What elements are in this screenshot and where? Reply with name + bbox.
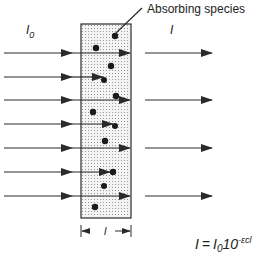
path-length-indicator: l <box>81 225 131 237</box>
absorbing-species-label: Absorbing species <box>147 2 245 16</box>
svg-text:I0: I0 <box>26 23 34 40</box>
incident-light-arrows <box>4 53 72 196</box>
incident-intensity-label: I0 <box>26 23 34 40</box>
svg-text:l: l <box>104 225 107 237</box>
transmitted-light-arrows <box>145 53 212 196</box>
transmitted-intensity-label: I <box>170 23 174 37</box>
beer-lambert-equation: I=I010-εcl <box>195 235 253 254</box>
svg-text:I=I010-εcl: I=I010-εcl <box>195 235 253 254</box>
beer-lambert-diagram: Absorbing species I0 I l I=I010-εcl <box>0 0 263 257</box>
